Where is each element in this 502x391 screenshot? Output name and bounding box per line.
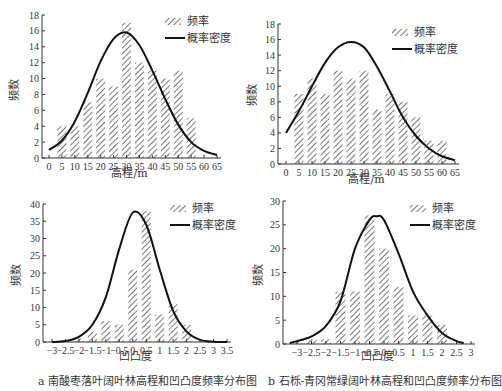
chart-elevation-b: 0246810121416180510152025303540455055606… bbox=[245, 19, 460, 187]
y-tick-label: 25 bbox=[30, 250, 40, 261]
x-tick-label: 1 bbox=[411, 347, 416, 358]
y-axis-label: 频数 bbox=[7, 79, 21, 101]
y-axis-label: 频数 bbox=[9, 264, 23, 286]
y-tick-label: 2 bbox=[34, 137, 39, 148]
legend-line-label: 概率密度 bbox=[192, 218, 236, 232]
y-tick-label: 0 bbox=[34, 153, 39, 164]
y-tick-label: 4 bbox=[34, 121, 39, 132]
x-tick-label: 10 bbox=[307, 167, 317, 178]
x-tick-label: −2 bbox=[321, 347, 332, 358]
caption-a: a 南酸枣落叶阔叶林高程和凹凸度频率分布图 bbox=[38, 372, 257, 388]
x-tick-label: 20 bbox=[333, 167, 343, 178]
x-tick-label: 2 bbox=[184, 345, 189, 356]
y-tick-label: 10 bbox=[270, 291, 280, 302]
x-tick-label: −1.5 bbox=[83, 345, 101, 356]
bar bbox=[350, 292, 360, 344]
y-tick-label: 0 bbox=[35, 337, 40, 348]
x-axis-label: 高程/m bbox=[111, 166, 148, 180]
x-tick-label: −1 bbox=[350, 347, 361, 358]
x-tick-label: 65 bbox=[212, 161, 222, 172]
bar bbox=[122, 23, 131, 158]
y-tick-label: 0 bbox=[270, 159, 275, 170]
x-tick-label: 40 bbox=[147, 161, 157, 172]
y-tick-label: 25 bbox=[270, 219, 280, 230]
x-tick-label: 0 bbox=[284, 167, 289, 178]
x-tick-label: 2 bbox=[440, 347, 445, 358]
legend-bar-label: 频率 bbox=[432, 201, 454, 215]
bar bbox=[321, 94, 330, 164]
y-tick-label: 0 bbox=[275, 339, 280, 350]
chart-elevation-a: 0246810121416180510152025303540455055606… bbox=[7, 10, 231, 181]
y-tick-label: 4 bbox=[270, 127, 275, 138]
y-tick-label: 20 bbox=[30, 268, 40, 279]
x-tick-label: 60 bbox=[437, 167, 447, 178]
bar bbox=[334, 71, 343, 164]
y-tick-label: 40 bbox=[30, 199, 40, 210]
caption-b: b 石栎-青冈常绿阔叶林高程和凹凸度频率分布图 bbox=[268, 372, 502, 388]
x-tick-label: −2.5 bbox=[302, 347, 320, 358]
y-axis-label: 频数 bbox=[245, 84, 259, 106]
bar bbox=[135, 63, 144, 158]
bar bbox=[101, 321, 110, 342]
legend-bar-label: 频率 bbox=[187, 14, 209, 28]
legend-bar-swatch bbox=[170, 205, 186, 212]
chart-curvature-b: 051015202530−3−2.5−2−1.5−1−0.500.511.522… bbox=[251, 196, 476, 364]
y-tick-label: 20 bbox=[270, 243, 280, 254]
y-tick-label: 12 bbox=[29, 57, 39, 68]
x-tick-label: 55 bbox=[424, 167, 434, 178]
y-tick-label: 18 bbox=[265, 19, 275, 30]
x-tick-label: 1.5 bbox=[167, 345, 180, 356]
x-axis-label: 凹凸度 bbox=[119, 349, 152, 363]
y-tick-label: 15 bbox=[270, 267, 280, 278]
bar bbox=[394, 287, 404, 344]
y-tick-label: 14 bbox=[265, 50, 275, 61]
y-tick-label: 10 bbox=[265, 81, 275, 92]
y-tick-label: 10 bbox=[30, 302, 40, 313]
y-tick-label: 8 bbox=[34, 89, 39, 100]
y-tick-label: 16 bbox=[29, 25, 39, 36]
y-tick-label: 10 bbox=[29, 73, 39, 84]
bar bbox=[83, 102, 92, 158]
x-tick-label: 5 bbox=[297, 167, 302, 178]
y-tick-label: 12 bbox=[265, 65, 275, 76]
bar bbox=[360, 71, 369, 164]
bar bbox=[128, 270, 137, 342]
y-tick-label: 16 bbox=[265, 34, 275, 45]
bar bbox=[379, 249, 389, 344]
x-tick-label: 2.5 bbox=[194, 345, 207, 356]
x-tick-label: 3 bbox=[469, 347, 474, 358]
x-tick-label: −3 bbox=[292, 347, 303, 358]
x-tick-label: 65 bbox=[450, 167, 460, 178]
x-tick-label: 1.5 bbox=[421, 347, 434, 358]
bar bbox=[438, 141, 447, 164]
bar bbox=[386, 94, 395, 164]
y-tick-label: 6 bbox=[270, 112, 275, 123]
y-tick-label: 5 bbox=[275, 315, 280, 326]
x-tick-label: 20 bbox=[96, 161, 106, 172]
bar bbox=[70, 126, 79, 158]
density-curve bbox=[290, 216, 464, 343]
x-tick-label: 5 bbox=[59, 161, 64, 172]
bar bbox=[365, 215, 375, 344]
x-tick-label: 45 bbox=[398, 167, 408, 178]
x-tick-label: −1.5 bbox=[331, 347, 349, 358]
x-tick-label: 0 bbox=[47, 161, 52, 172]
y-tick-label: 8 bbox=[270, 96, 275, 107]
x-tick-label: 50 bbox=[411, 167, 421, 178]
x-axis-label: 凹凸度 bbox=[361, 349, 394, 363]
x-tick-label: 10 bbox=[70, 161, 80, 172]
bar bbox=[347, 78, 356, 164]
legend-line-label: 概率密度 bbox=[187, 31, 231, 45]
y-tick-label: 5 bbox=[35, 319, 40, 330]
x-tick-label: 3.5 bbox=[221, 345, 234, 356]
x-tick-label: 15 bbox=[320, 167, 330, 178]
x-tick-label: 40 bbox=[385, 167, 395, 178]
y-tick-label: 18 bbox=[29, 10, 39, 21]
legend-line-label: 概率密度 bbox=[414, 42, 458, 56]
x-tick-label: 15 bbox=[83, 161, 93, 172]
x-tick-label: −2.5 bbox=[56, 345, 74, 356]
legend-bar-swatch bbox=[410, 205, 426, 212]
bar bbox=[373, 110, 382, 164]
bar bbox=[96, 79, 105, 158]
